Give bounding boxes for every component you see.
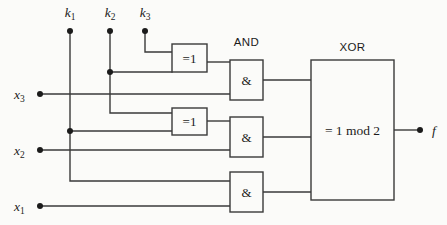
label-k3: k3 — [140, 5, 151, 22]
terminal-dot-x2[interactable] — [37, 147, 43, 153]
and-column-header: AND — [234, 36, 259, 48]
wire-k3-bus — [145, 31, 172, 52]
label-f: f — [432, 123, 438, 138]
terminal-dot-k3[interactable] — [142, 28, 148, 34]
xor-column-header: XOR — [339, 41, 365, 53]
terminal-dot-k1[interactable] — [67, 28, 73, 34]
sum-block-label: = 1 mod 2 — [325, 123, 380, 138]
circuit-diagram: =1 =1 & & & = 1 mod 2 AND XOR k1 k2 k3 x… — [0, 0, 447, 225]
label-x1: x1 — [13, 199, 25, 216]
label-k2: k2 — [105, 5, 116, 22]
xor-gate-1-label: =1 — [183, 51, 197, 66]
terminal-dot-x3[interactable] — [37, 91, 43, 97]
terminal-dot-x1[interactable] — [37, 203, 43, 209]
terminal-dot-f[interactable] — [417, 127, 423, 133]
and-gate-2-label: & — [241, 130, 251, 145]
and-gate-1-label: & — [241, 73, 251, 88]
circuit-canvas: =1 =1 & & & = 1 mod 2 AND XOR k1 k2 k3 x… — [0, 0, 447, 225]
xor-gate-2-label: =1 — [183, 114, 197, 129]
label-k1: k1 — [65, 5, 76, 22]
label-x3: x3 — [13, 87, 25, 104]
label-x2: x2 — [13, 143, 25, 160]
junction-dot-k2-xor1 — [107, 69, 113, 75]
and-gate-3-label: & — [241, 185, 251, 200]
junction-dot-k1-xor2 — [67, 128, 73, 134]
terminal-dot-k2[interactable] — [107, 28, 113, 34]
